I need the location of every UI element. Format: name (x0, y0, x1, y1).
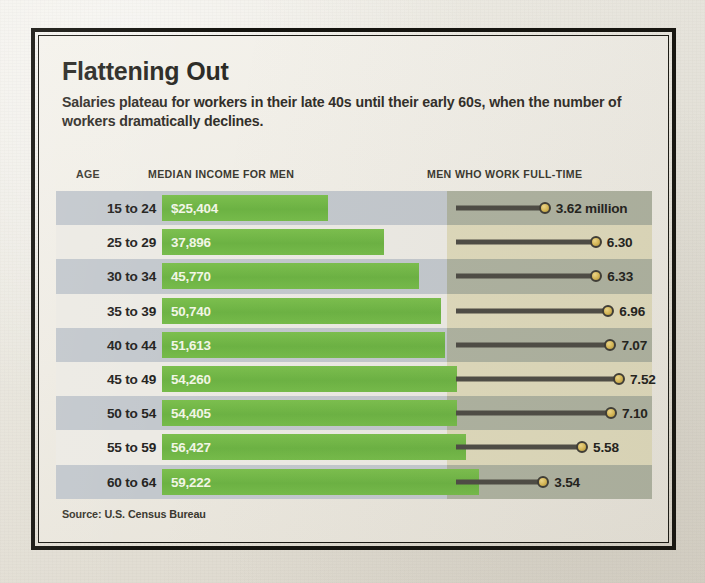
fulltime-dot-marker (602, 305, 614, 317)
column-header-age: AGE (76, 168, 100, 180)
fulltime-dot-marker (539, 202, 551, 214)
infographic-content: Flattening Out Salaries plateau for work… (38, 35, 669, 543)
age-label: 35 to 39 (66, 303, 156, 318)
table-row: 35 to 3950,7406.96 (38, 294, 669, 328)
fulltime-dot-marker (604, 339, 616, 351)
chart-body: 15 to 24$25,4043.62 million25 to 2937,89… (38, 191, 669, 501)
fulltime-stem (456, 308, 608, 313)
table-row: 60 to 6459,2223.54 (38, 465, 669, 499)
fulltime-stem (456, 342, 610, 347)
age-label: 45 to 49 (66, 372, 156, 387)
fulltime-stem (456, 240, 596, 245)
table-row: 15 to 24$25,4043.62 million (38, 191, 669, 225)
table-row: 30 to 3445,7706.33 (38, 259, 669, 293)
income-bar: 50,740 (162, 298, 441, 324)
fulltime-stem (456, 206, 545, 211)
age-label: 55 to 59 (66, 440, 156, 455)
fulltime-value-label: 7.52 (630, 372, 656, 387)
income-bar-label: 51,613 (171, 337, 211, 352)
table-row: 50 to 5454,4057.10 (38, 396, 669, 430)
column-header-full-time: MEN WHO WORK FULL-TIME (427, 168, 582, 180)
fulltime-value-label: 6.30 (607, 235, 633, 250)
income-bar-label: 45,770 (171, 269, 211, 284)
income-bar-label: 59,222 (171, 474, 211, 489)
age-label: 30 to 34 (66, 269, 156, 284)
fulltime-value-label: 6.96 (619, 303, 645, 318)
page-subtitle: Salaries plateau for workers in their la… (62, 93, 622, 131)
fulltime-value-label: 5.58 (593, 440, 619, 455)
fulltime-stem (456, 377, 619, 382)
fulltime-value-label: 7.07 (621, 337, 647, 352)
fulltime-value-label: 3.54 (554, 474, 580, 489)
fulltime-stem (456, 274, 596, 279)
age-label: 60 to 64 (66, 474, 156, 489)
income-bar: 45,770 (162, 263, 419, 289)
income-bar-label: $25,404 (171, 201, 218, 216)
income-bar-label: 56,427 (171, 440, 211, 455)
table-row: 45 to 4954,2607.52 (38, 362, 669, 396)
fulltime-dot-marker (613, 373, 625, 385)
income-bar: 54,260 (162, 366, 457, 392)
fulltime-value-label: 6.33 (607, 269, 633, 284)
income-bar-label: 54,260 (171, 372, 211, 387)
age-label: 40 to 44 (66, 337, 156, 352)
income-bar-label: 50,740 (171, 303, 211, 318)
income-bar: 54,405 (162, 400, 457, 426)
income-bar: 59,222 (162, 469, 479, 495)
fulltime-dot-marker (605, 407, 617, 419)
fulltime-dot-marker (576, 441, 588, 453)
income-bar: 56,427 (162, 434, 466, 460)
income-bar: 37,896 (162, 229, 384, 255)
income-bar: $25,404 (162, 195, 328, 221)
income-bar: 51,613 (162, 332, 445, 358)
fulltime-stem (456, 445, 582, 450)
fulltime-value-label: 3.62 million (556, 201, 628, 216)
age-label: 15 to 24 (66, 201, 156, 216)
income-bar-label: 54,405 (171, 406, 211, 421)
fulltime-stem (456, 411, 611, 416)
income-bar-label: 37,896 (171, 235, 211, 250)
fulltime-dot-marker (537, 476, 549, 488)
page-title: Flattening Out (62, 57, 229, 86)
fulltime-dot-marker (590, 270, 602, 282)
table-row: 25 to 2937,8966.30 (38, 225, 669, 259)
age-label: 50 to 54 (66, 406, 156, 421)
fulltime-value-label: 7.10 (622, 406, 648, 421)
fulltime-stem (456, 479, 543, 484)
column-header-median-income: MEDIAN INCOME FOR MEN (148, 168, 294, 180)
age-label: 25 to 29 (66, 235, 156, 250)
table-row: 40 to 4451,6137.07 (38, 328, 669, 362)
table-row: 55 to 5956,4275.58 (38, 430, 669, 464)
source-note: Source: U.S. Census Bureau (62, 508, 206, 520)
fulltime-dot-marker (590, 236, 602, 248)
